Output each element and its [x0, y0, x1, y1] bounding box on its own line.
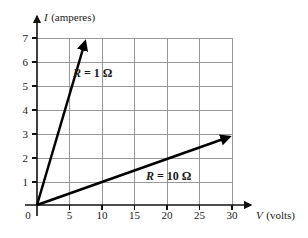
- series-label-r1: R=1Ω: [72, 66, 113, 80]
- y-tick-labels: 7 6 5 4 3 2 1: [23, 32, 29, 188]
- xtick-label-25: 25: [194, 209, 206, 221]
- ytick-label-1: 1: [23, 176, 29, 188]
- xtick-label-10: 10: [97, 209, 109, 221]
- xtick-label-30: 30: [227, 209, 239, 221]
- x-tick-labels: 0 5 10 15 20 25 30: [25, 209, 238, 221]
- series-label-r1-symbol: R: [72, 66, 81, 80]
- ytick-label-4: 4: [23, 104, 29, 116]
- y-axis-title-symbol: I: [43, 11, 49, 23]
- xtick-label-5: 5: [67, 209, 73, 221]
- xtick-label-0: 0: [25, 209, 31, 221]
- series-label-r10-unit: Ω: [182, 169, 192, 183]
- series-label-r1-unit: Ω: [103, 66, 113, 80]
- x-axis-title-unit: (volts): [266, 209, 295, 222]
- series-label-r10: R=10Ω: [145, 169, 192, 183]
- ytick-label-5: 5: [23, 80, 29, 92]
- series-label-r10-symbol: R: [145, 169, 154, 183]
- series-label-r1-relation: =: [84, 66, 91, 80]
- ytick-label-7: 7: [23, 32, 29, 44]
- data-series: [37, 42, 229, 205]
- x-axis-title: V(volts): [256, 209, 295, 222]
- series-label-r10-relation: =: [157, 169, 164, 183]
- y-axis-title-unit: (amperes): [51, 11, 95, 24]
- chart-canvas: 0 5 10 15 20 25 30 7 6 5 4 3 2 1 R=1Ω: [0, 0, 308, 238]
- x-axis-title-symbol: V: [256, 209, 264, 221]
- series-line-r10: [37, 137, 229, 205]
- axes: [25, 16, 251, 216]
- ytick-label-2: 2: [23, 152, 29, 164]
- iv-characteristic-figure: 0 5 10 15 20 25 30 7 6 5 4 3 2 1 R=1Ω: [0, 0, 308, 238]
- series-label-r1-value: 1: [94, 66, 100, 80]
- xtick-label-15: 15: [129, 209, 141, 221]
- xtick-label-20: 20: [162, 209, 174, 221]
- ytick-label-3: 3: [23, 128, 29, 140]
- series-label-r10-value: 10: [167, 169, 179, 183]
- ytick-label-6: 6: [23, 56, 29, 68]
- y-axis-title: I(amperes): [43, 11, 95, 24]
